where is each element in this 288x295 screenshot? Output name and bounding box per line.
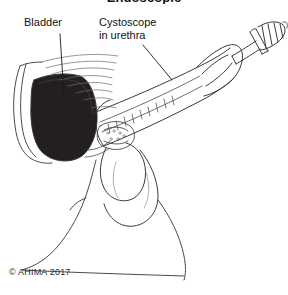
cystoscope-shaft: [232, 41, 260, 64]
bladder-cavity: [31, 74, 97, 161]
figure-title: Endoscopic: [0, 0, 288, 4]
anatomical-illustration: [0, 0, 288, 295]
cystoscope-eyepiece: [258, 22, 285, 50]
glans-penis: [196, 45, 243, 96]
endoscopic-cystoscopy-figure: Endoscopic Bladder Cystoscope in urethra…: [0, 0, 288, 295]
penis-shaft: [96, 48, 234, 146]
scrotum-outline: [100, 143, 158, 226]
copyright-notice: © AHIMA 2017: [9, 267, 71, 277]
cystoscope-leader-line: [143, 45, 172, 80]
body-contour: [22, 160, 96, 270]
label-cystoscope: Cystoscope in urethra: [99, 16, 156, 41]
label-bladder: Bladder: [24, 16, 62, 29]
